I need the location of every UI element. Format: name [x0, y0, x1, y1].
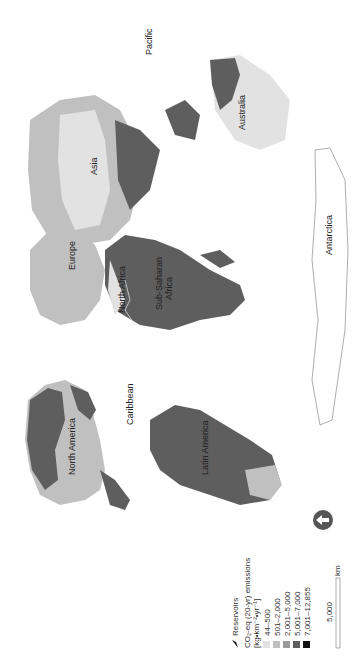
label-antarctica: Antarctica	[324, 215, 334, 255]
scale-bar-unit: km	[333, 565, 342, 576]
legend-title-line1: CO₂-eq (20-yr) emissions	[243, 558, 252, 648]
legend-reservoirs: Reservoirs	[231, 598, 240, 636]
label-australia: Australia	[237, 95, 247, 130]
label-europe: Europe	[67, 241, 77, 270]
legend: Reservoirs CO₂-eq (20-yr) emissions [kg•…	[231, 558, 342, 648]
region-antarctica	[312, 148, 348, 425]
legend-swatch-5	[303, 641, 310, 648]
legend-swatch-1	[263, 641, 270, 648]
legend-swatch-3	[283, 641, 290, 648]
legend-title-line2: [kg•km⁻²•yr⁻¹]	[252, 599, 261, 648]
legend-class-1: 44–500	[263, 609, 272, 636]
label-north-africa: North Africa	[117, 266, 127, 313]
label-latin-america: Latin America	[200, 420, 210, 475]
label-asia: Asia	[89, 157, 99, 175]
scale-bar-value: 5,000	[325, 601, 334, 622]
legend-class-4: 5,001–7,000	[293, 591, 302, 636]
label-caribbean: Caribbean	[125, 383, 135, 425]
north-arrow-icon	[313, 510, 333, 530]
reservoir-icon	[232, 640, 238, 648]
region-north-america	[25, 380, 130, 510]
scale-bar	[336, 578, 340, 648]
label-pacific: Pacific	[144, 28, 154, 55]
label-africa: Africa	[164, 277, 174, 300]
legend-swatch-4	[293, 641, 300, 648]
legend-class-2: 501–2,000	[273, 598, 282, 636]
region-australia	[210, 55, 290, 150]
world-map: North America Caribbean Latin America Eu…	[0, 0, 364, 661]
region-asia	[28, 95, 200, 245]
label-sub-saharan: Sub-Saharan	[154, 257, 164, 310]
legend-swatch-2	[273, 641, 280, 648]
legend-class-3: 2,001–5,000	[283, 591, 292, 636]
region-latin-america	[150, 405, 282, 505]
label-north-america: North America	[67, 418, 77, 475]
legend-class-5: 7,001–12,855	[303, 587, 312, 636]
